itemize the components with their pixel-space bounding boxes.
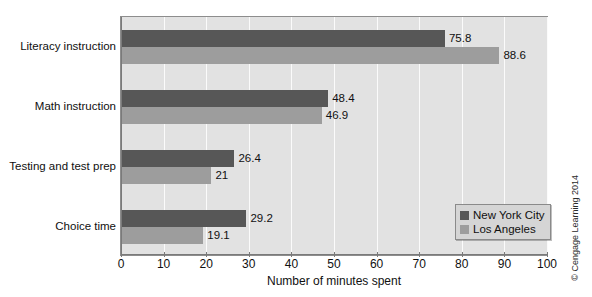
x-tick-label-40: 40 bbox=[285, 257, 298, 271]
bar-la-0 bbox=[122, 47, 499, 64]
category-label-0: Literacy instruction bbox=[20, 39, 116, 53]
x-tick-label-30: 30 bbox=[242, 257, 255, 271]
category-label-1: Math instruction bbox=[35, 99, 116, 113]
legend-swatch-icon bbox=[460, 211, 469, 220]
legend-label: Los Angeles bbox=[473, 223, 536, 235]
legend-swatch-icon bbox=[460, 225, 469, 234]
bar-nyc-2 bbox=[122, 150, 234, 167]
bar-value-label: 46.9 bbox=[326, 107, 348, 124]
bar-la-3 bbox=[122, 227, 203, 244]
bar-value-label: 48.4 bbox=[332, 90, 354, 107]
x-tick-label-10: 10 bbox=[157, 257, 170, 271]
chart-legend: New York CityLos Angeles bbox=[455, 204, 551, 240]
copyright-credit: © Cengage Learning 2014 bbox=[570, 175, 580, 281]
legend-item-0: New York City bbox=[460, 208, 545, 222]
x-tick-label-50: 50 bbox=[327, 257, 340, 271]
category-label-3: Choice time bbox=[55, 219, 116, 233]
x-axis-ticks: 0102030405060708090100 bbox=[120, 257, 548, 275]
x-axis-title: Number of minutes spent bbox=[120, 274, 548, 288]
bar-nyc-0 bbox=[122, 30, 445, 47]
category-label-2: Testing and test prep bbox=[9, 159, 116, 173]
bar-value-label: 88.6 bbox=[503, 47, 525, 64]
bar-la-1 bbox=[122, 107, 322, 124]
bar-value-label: 26.4 bbox=[238, 150, 260, 167]
bar-nyc-1 bbox=[122, 90, 328, 107]
bar-value-label: 29.2 bbox=[250, 210, 272, 227]
x-tick-label-90: 90 bbox=[498, 257, 511, 271]
x-tick-label-20: 20 bbox=[200, 257, 213, 271]
legend-item-1: Los Angeles bbox=[460, 222, 545, 236]
bar-nyc-3 bbox=[122, 210, 246, 227]
x-tick-label-80: 80 bbox=[455, 257, 468, 271]
legend-label: New York City bbox=[473, 209, 545, 221]
bar-chart-figure: Literacy instructionMath instructionTest… bbox=[0, 0, 592, 297]
bar-value-label: 19.1 bbox=[207, 227, 229, 244]
x-tick-label-100: 100 bbox=[537, 257, 557, 271]
bar-value-label: 21 bbox=[215, 167, 228, 184]
category-axis-labels: Literacy instructionMath instructionTest… bbox=[0, 16, 116, 256]
bar-la-2 bbox=[122, 167, 211, 184]
x-tick-label-0: 0 bbox=[118, 257, 125, 271]
bar-value-label: 75.8 bbox=[449, 30, 471, 47]
x-tick-label-60: 60 bbox=[370, 257, 383, 271]
x-tick-label-70: 70 bbox=[413, 257, 426, 271]
